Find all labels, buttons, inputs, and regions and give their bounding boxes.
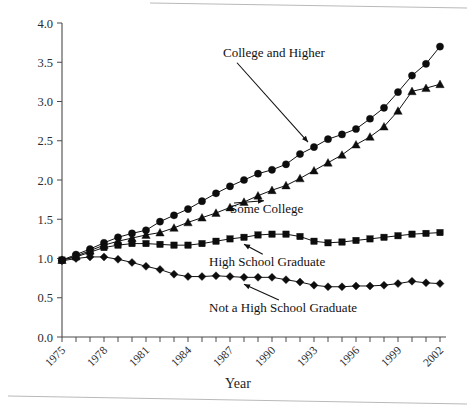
y-axis-tick-label: 1.0 xyxy=(37,252,53,266)
data-point-circle xyxy=(282,161,289,168)
data-point-square xyxy=(283,231,289,237)
data-point-square xyxy=(143,240,149,246)
data-point-circle xyxy=(240,176,247,183)
series-annotation-label: Some College xyxy=(230,201,304,216)
y-axis-tick-label: 2.5 xyxy=(37,134,53,148)
data-point-circle xyxy=(226,183,233,190)
data-point-square xyxy=(325,240,331,246)
data-point-circle xyxy=(394,88,401,95)
series-annotation-label: College and Higher xyxy=(223,45,325,60)
y-axis-tick-label: 4.0 xyxy=(37,17,53,31)
data-point-circle xyxy=(408,72,415,79)
data-point-circle xyxy=(212,190,219,197)
data-point-circle xyxy=(170,212,177,219)
data-point-circle xyxy=(310,143,317,150)
series-annotation-label: Not a High School Graduate xyxy=(209,300,357,315)
data-point-square xyxy=(171,242,177,248)
data-point-circle xyxy=(380,104,387,111)
data-point-circle xyxy=(338,131,345,138)
data-point-square xyxy=(185,242,191,248)
data-point-circle xyxy=(254,170,261,177)
y-axis-tick-label: 3.5 xyxy=(37,56,53,70)
data-point-square xyxy=(395,233,401,239)
data-point-square xyxy=(199,240,205,246)
data-point-circle xyxy=(296,150,303,157)
data-point-square xyxy=(423,230,429,236)
data-point-square xyxy=(409,231,415,237)
data-point-square xyxy=(213,238,219,244)
y-axis-tick-label: 0.5 xyxy=(37,291,53,305)
data-point-square xyxy=(437,229,443,235)
data-point-circle xyxy=(436,43,443,50)
data-point-circle xyxy=(366,115,373,122)
data-point-circle xyxy=(198,198,205,205)
data-point-square xyxy=(227,236,233,242)
data-point-square xyxy=(367,236,373,242)
data-point-square xyxy=(353,237,359,243)
series-annotation-label: High School Graduate xyxy=(209,254,325,269)
data-point-square xyxy=(255,232,261,238)
data-point-circle xyxy=(352,125,359,132)
data-point-circle xyxy=(156,218,163,225)
data-point-square xyxy=(339,239,345,245)
data-point-square xyxy=(101,244,107,250)
data-point-circle xyxy=(324,136,331,143)
data-point-circle xyxy=(268,166,275,173)
data-point-square xyxy=(241,234,247,240)
data-point-square xyxy=(269,231,275,237)
data-point-square xyxy=(381,234,387,240)
x-axis-title: Year xyxy=(225,376,251,391)
data-point-circle xyxy=(422,60,429,67)
y-axis-tick-label: 1.5 xyxy=(37,213,53,227)
data-point-square xyxy=(129,240,135,246)
y-axis-tick-label: 0.0 xyxy=(37,331,53,345)
data-point-square xyxy=(115,242,121,248)
y-axis-tick-label: 3.0 xyxy=(37,95,53,109)
data-point-square xyxy=(311,238,317,244)
data-point-square xyxy=(297,233,303,239)
data-point-square xyxy=(157,241,163,247)
y-axis-tick-label: 2.0 xyxy=(37,174,53,188)
line-chart: 0.00.51.01.52.02.53.03.54.0 197519781981… xyxy=(0,0,467,412)
data-point-circle xyxy=(184,205,191,212)
chart-figure: 0.00.51.01.52.02.53.03.54.0 197519781981… xyxy=(0,0,467,412)
